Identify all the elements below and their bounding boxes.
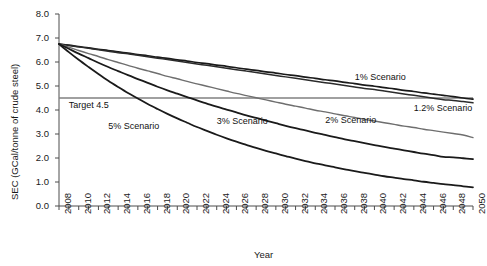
x-tick-label: 2048 bbox=[457, 193, 466, 214]
series-label-5-scenario: 5% Scenario bbox=[108, 122, 159, 131]
x-axis-title: Year bbox=[254, 250, 273, 259]
x-tick-label: 2040 bbox=[378, 193, 387, 214]
series-line-1-2-scenario bbox=[59, 44, 473, 103]
x-tick-label: 2046 bbox=[438, 193, 447, 214]
x-tick-label: 2010 bbox=[83, 193, 92, 214]
y-tick-label: 4.0 bbox=[19, 105, 49, 114]
y-axis-title: SEC (GCal/tonne of crude steel) bbox=[10, 64, 19, 200]
x-tick-label: 2018 bbox=[162, 193, 171, 214]
y-tick-label: 5.0 bbox=[19, 81, 49, 90]
y-tick-label: 0.0 bbox=[19, 201, 49, 210]
x-tick-label: 2036 bbox=[339, 193, 348, 214]
x-tick-label: 2020 bbox=[181, 193, 190, 214]
x-tick-label: 2050 bbox=[477, 193, 486, 214]
x-tick-label: 2034 bbox=[319, 193, 328, 214]
y-tick-label: 6.0 bbox=[19, 57, 49, 66]
x-tick-label: 2030 bbox=[280, 193, 289, 214]
chart-axes bbox=[59, 14, 473, 206]
target-line-label: Target 4.5 bbox=[69, 101, 109, 110]
series-label-3-scenario: 3% Scenario bbox=[217, 117, 268, 126]
x-tick-label: 2024 bbox=[221, 193, 230, 214]
series-label-2-scenario: 2% Scenario bbox=[325, 116, 376, 125]
x-tick-label: 2028 bbox=[260, 193, 269, 214]
x-tick-label: 2022 bbox=[201, 193, 210, 214]
series-line-3-scenario bbox=[59, 44, 473, 159]
x-tick-label: 2044 bbox=[418, 193, 427, 214]
series-label-1-scenario: 1% Scenario bbox=[355, 73, 406, 82]
x-tick-label: 2026 bbox=[240, 193, 249, 214]
x-tick-label: 2038 bbox=[359, 193, 368, 214]
series-label-1-2-scenario: 1.2% Scenario bbox=[414, 104, 473, 113]
y-tick-label: 3.0 bbox=[19, 129, 49, 138]
x-tick-label: 2012 bbox=[102, 193, 111, 214]
y-tick-label: 8.0 bbox=[19, 9, 49, 18]
y-tick-label: 2.0 bbox=[19, 153, 49, 162]
y-tick-label: 7.0 bbox=[19, 33, 49, 42]
x-tick-label: 2042 bbox=[398, 193, 407, 214]
x-tick-label: 2032 bbox=[300, 193, 309, 214]
y-tick-marks bbox=[55, 14, 59, 206]
x-tick-label: 2014 bbox=[122, 193, 131, 214]
x-tick-label: 2016 bbox=[142, 193, 151, 214]
y-tick-label: 1.0 bbox=[19, 177, 49, 186]
x-tick-label: 2008 bbox=[63, 193, 72, 214]
